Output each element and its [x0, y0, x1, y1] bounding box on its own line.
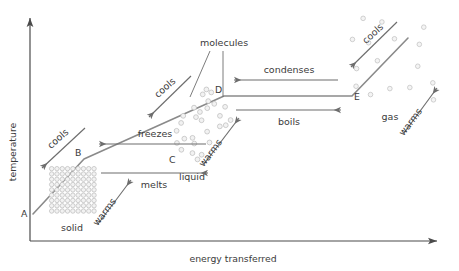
solid-molecule [76, 209, 80, 213]
solid-molecule [92, 198, 96, 202]
solid-molecules-lattice [49, 166, 96, 213]
solid-molecule [87, 193, 91, 197]
solid-molecule [92, 193, 96, 197]
gas-molecule [350, 37, 355, 42]
gas-molecule [375, 58, 380, 63]
liquid-molecule [205, 106, 210, 111]
liquid-molecule [181, 113, 186, 118]
molecules-label: molecules [200, 37, 248, 48]
state-label-solid: solid [61, 222, 83, 233]
solid-molecule [65, 188, 69, 192]
solid-molecule [65, 166, 69, 170]
liquid-molecule [209, 90, 214, 95]
solid-molecule [60, 198, 64, 202]
solid-molecule [49, 209, 53, 213]
solid-molecule [87, 209, 91, 213]
state-label-gas: gas [382, 111, 399, 122]
solid-molecule [71, 198, 75, 202]
solid-molecule [76, 198, 80, 202]
gas-molecule [408, 85, 413, 90]
solid-molecule [92, 166, 96, 170]
solid-molecule [92, 204, 96, 208]
gas-molecule [415, 64, 420, 69]
solid-molecule [92, 182, 96, 186]
solid-molecule [87, 198, 91, 202]
solid-molecule [65, 209, 69, 213]
solid-molecule [92, 172, 96, 176]
solid-molecule [49, 177, 53, 181]
solid-molecule [81, 172, 85, 176]
solid-molecule [55, 193, 59, 197]
solid-molecule [71, 177, 75, 181]
liquid-molecule [194, 115, 199, 120]
solid-molecule [49, 204, 53, 208]
gas-molecule [354, 84, 359, 89]
liquid-molecule [206, 99, 211, 104]
gas-molecule [368, 92, 373, 97]
point-label-e: E [354, 91, 360, 102]
solid-molecule [65, 204, 69, 208]
liquid-molecule [205, 129, 210, 134]
solid-molecule [76, 188, 80, 192]
solid-molecule [60, 182, 64, 186]
solid-molecule [55, 209, 59, 213]
label-melts: melts [141, 179, 167, 190]
label-gas-warms: warms [396, 106, 424, 138]
solid-molecule [60, 172, 64, 176]
point-label-a: A [21, 208, 28, 219]
solid-molecule [55, 182, 59, 186]
label-boils: boils [278, 116, 300, 127]
solid-molecule [60, 166, 64, 170]
solid-molecule [60, 177, 64, 181]
liquid-molecule [190, 151, 195, 156]
liquid-molecule [182, 136, 187, 141]
liquid-molecule [198, 110, 203, 115]
solid-molecule [76, 182, 80, 186]
sloped-process-arrows: cools warms cools warms cools warms [42, 21, 437, 228]
x-axis-label: energy transferred [189, 253, 276, 264]
liquid-molecule [223, 123, 228, 128]
solid-molecule [55, 166, 59, 170]
gas-molecule [417, 42, 422, 47]
solid-molecule [81, 198, 85, 202]
solid-molecule [81, 188, 85, 192]
solid-molecule [87, 204, 91, 208]
solid-molecule [71, 204, 75, 208]
solid-molecule [49, 193, 53, 197]
solid-molecule [87, 166, 91, 170]
solid-molecule [92, 177, 96, 181]
liquid-molecule [200, 92, 205, 97]
gas-molecule [421, 25, 426, 30]
solid-molecule [81, 182, 85, 186]
liquid-molecule [192, 105, 197, 110]
solid-molecule [55, 177, 59, 181]
solid-molecule [87, 172, 91, 176]
solid-molecule [92, 188, 96, 192]
solid-molecule [76, 166, 80, 170]
gas-molecule [431, 98, 436, 103]
label-liquid-cools: cools [152, 75, 178, 100]
solid-molecule [87, 182, 91, 186]
solid-molecule [76, 177, 80, 181]
solid-molecule [49, 198, 53, 202]
solid-molecule [71, 166, 75, 170]
liquid-molecule [228, 118, 233, 123]
solid-molecule [55, 188, 59, 192]
solid-molecule [55, 172, 59, 176]
liquid-molecule [174, 128, 179, 133]
solid-molecule [60, 204, 64, 208]
solid-molecule [65, 198, 69, 202]
gas-molecule [380, 20, 385, 25]
liquid-molecule [179, 147, 184, 152]
point-label-c: C [169, 154, 176, 165]
solid-molecule [60, 188, 64, 192]
heating-curve-diagram: temperature energy transferred A B C D E… [0, 0, 459, 271]
solid-molecule [71, 172, 75, 176]
solid-molecule [81, 177, 85, 181]
liquid-molecule [190, 135, 195, 140]
solid-molecule [71, 193, 75, 197]
gas-molecule [354, 66, 359, 71]
label-condenses: condenses [264, 64, 315, 75]
gas-molecule [388, 86, 393, 91]
liquid-molecule [223, 104, 228, 109]
